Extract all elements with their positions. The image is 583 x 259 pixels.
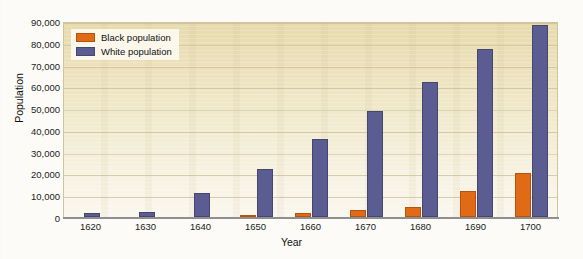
x-axis-tick-label: 1650 [226,221,286,232]
y-axis-tick-label: 20,000 [2,169,60,180]
population-bar-chart: 010,00020,00030,00040,00050,00060,00070,… [0,0,583,259]
y-axis-tick-label: 80,000 [2,38,60,49]
y-axis-tick-label: 30,000 [2,147,60,158]
legend-label: White population [101,46,172,57]
x-axis-title: Year [0,236,583,248]
y-axis-tick-label: 40,000 [2,125,60,136]
y-axis-tick-label: 10,000 [2,191,60,202]
bar-white-pop-1650 [257,169,273,217]
bar-black-pop-1680 [405,207,421,217]
x-axis-tick-label: 1700 [501,221,561,232]
y-axis-tick-label: 0 [2,213,60,224]
bar-black-pop-1700 [515,173,531,217]
y-axis-tick-labels: 010,00020,00030,00040,00050,00060,00070,… [0,0,60,259]
legend-swatch-black-pop [76,33,95,42]
x-axis-tick-label: 1630 [116,221,176,232]
x-axis-tick-label: 1660 [281,221,341,232]
bar-group [229,169,284,217]
legend-swatch-white-pop [76,47,95,56]
legend-item: White population [76,46,172,57]
x-axis-tick-label: 1640 [171,221,231,232]
bar-white-pop-1670 [367,111,383,217]
x-axis-line [63,217,559,219]
bar-white-pop-1660 [312,139,328,217]
y-axis-tick-label: 90,000 [2,17,60,28]
x-axis-tick-label: 1680 [391,221,451,232]
bar-white-pop-1690 [477,49,493,217]
bar-group [284,139,339,217]
bar-group [504,25,558,217]
bar-white-pop-1640 [194,193,210,217]
y-axis-tick-label: 70,000 [2,60,60,71]
legend-item: Black population [76,32,172,43]
bar-black-pop-1690 [460,191,476,217]
x-axis-tick-label: 1690 [446,221,506,232]
x-axis-tick-label: 1620 [61,221,121,232]
y-axis-title: Population [13,43,25,153]
bar-group [449,49,504,217]
legend-label: Black population [101,32,171,43]
bar-group [339,111,394,217]
chart-legend: Black populationWhite population [71,29,179,60]
bar-group [174,193,229,217]
bar-group [394,82,449,217]
bar-white-pop-1680 [422,82,438,217]
x-axis-tick-label: 1670 [336,221,396,232]
y-axis-tick-label: 60,000 [2,82,60,93]
bar-white-pop-1700 [532,25,548,217]
y-axis-tick-label: 50,000 [2,104,60,115]
